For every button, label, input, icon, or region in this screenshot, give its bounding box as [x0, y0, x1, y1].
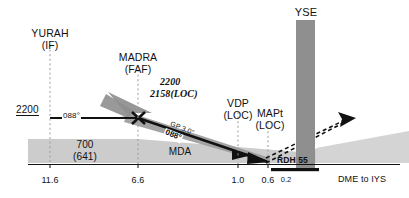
- fix-label-mapt-name: MAPt: [244, 108, 296, 120]
- terrain-hat-label: (641): [60, 151, 110, 162]
- fix-label-madra-type: (FAF): [108, 64, 168, 76]
- minimum-altitude-left: 2200: [16, 104, 39, 116]
- fix-label-yurah-name: YURAH: [20, 28, 80, 40]
- fix-label-madra-name: MADRA: [108, 52, 168, 64]
- axis-tick-label-3: 1.0: [222, 175, 254, 185]
- approach-profile-chart: YURAH (IF) MADRA (FAF) 2200 2158(LOC) VD…: [0, 0, 409, 198]
- axis-tick-label-1: 11.6: [30, 175, 70, 185]
- runway-elevation-bar: [296, 20, 315, 168]
- rdh-label: RDH 55: [277, 156, 308, 166]
- terrain-altitude-label: 700: [60, 139, 110, 150]
- axis-tick-label-5: 0.2: [278, 176, 294, 184]
- mda-band-label: MDA: [150, 146, 210, 157]
- terrain-wash-right: [316, 131, 409, 163]
- dme-axis-label: DME to IYS: [338, 174, 386, 184]
- fix-label-mapt-type: (LOC): [244, 120, 296, 132]
- missed-approach-arrowhead: [338, 112, 356, 127]
- runway-label-yse: YSE: [280, 6, 332, 18]
- faf-altitude-primary: 2200: [160, 76, 180, 87]
- runway-surface-bar: [271, 168, 319, 171]
- axis-tick-label-2: 6.6: [120, 175, 156, 185]
- faf-altitude-loc: 2158(LOC): [150, 88, 198, 99]
- inbound-course-label: 088°: [62, 112, 81, 121]
- fix-label-yurah-type: (IF): [20, 40, 80, 52]
